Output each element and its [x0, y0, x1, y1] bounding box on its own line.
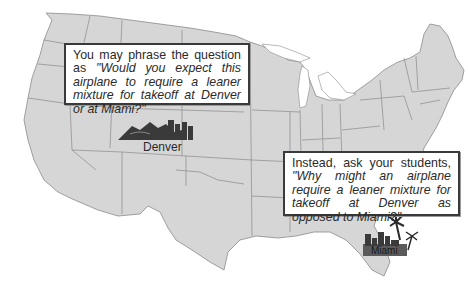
callout-2-lead: Instead, ask your students,: [292, 156, 451, 170]
callout-2-quote: "Why might an airplane require a leaner …: [292, 169, 451, 223]
miami-label: Miami: [371, 245, 398, 256]
callout-phrase-question: You may phrase the question as "Would yo…: [64, 43, 250, 105]
lake-erie-huron: [318, 72, 356, 100]
denver-label: Denver: [143, 140, 182, 154]
callout-ask-students: Instead, ask your students, "Why might a…: [283, 151, 460, 216]
